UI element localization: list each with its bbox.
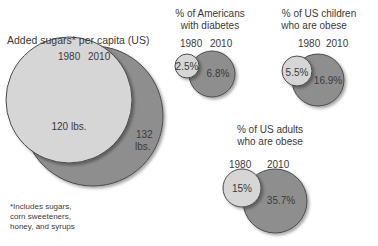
children-1980-value: 5.5%: [286, 67, 309, 79]
diabetes-title-line2: with diabetes: [181, 20, 239, 32]
adults-2010-value: 35.7%: [267, 195, 295, 207]
sugar-year-2010-label: 2010: [88, 51, 110, 63]
children-year-2010-label: 2010: [326, 38, 348, 50]
sugar-footnote-line3: honey, and syrups: [10, 222, 75, 232]
diabetes-year-2010-label: 2010: [210, 38, 232, 50]
sugar-2010-unit: lbs.: [135, 141, 151, 153]
adults-title-line2: who are obese: [237, 136, 303, 148]
children-title-line1: % of US children: [282, 8, 356, 20]
adults-1980-value: 15%: [232, 183, 252, 195]
diabetes-title-line1: % of Americans: [175, 8, 244, 20]
sugar-footnote-line2: corn sweeteners,: [10, 212, 71, 222]
children-year-1980-label: 1980: [298, 38, 320, 50]
diabetes-2010-value: 6.8%: [207, 68, 230, 80]
sugar-1980-value: 120 lbs.: [51, 121, 86, 133]
sugar-chart-title: Added sugars* per capita (US): [7, 34, 149, 46]
adults-year-2010-label: 2010: [267, 159, 289, 171]
children-title-line2: who are obese: [281, 20, 347, 32]
sugar-footnote-line1: *Includes sugars,: [10, 202, 71, 212]
diabetes-1980-value: 2.5%: [176, 61, 199, 73]
adults-year-1980-label: 1980: [229, 159, 251, 171]
sugar-year-1980-label: 1980: [58, 51, 80, 63]
sugar-2010-value: 132: [136, 129, 153, 141]
adults-title-line1: % of US adults: [237, 124, 303, 136]
diabetes-year-1980-label: 1980: [180, 38, 202, 50]
sugar-bubbles: [6, 37, 163, 186]
children-2010-value: 16.9%: [314, 75, 342, 87]
